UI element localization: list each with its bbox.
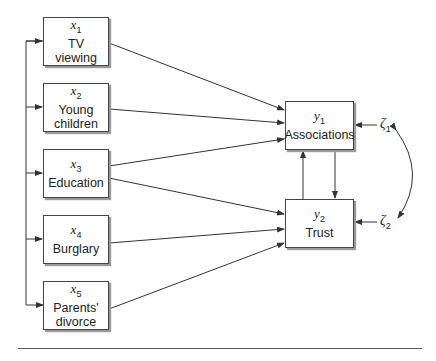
disturbance-zeta2: ζ2 <box>380 213 391 231</box>
box-label: viewing <box>55 51 97 65</box>
box-label: Associations <box>284 128 354 142</box>
box-label: Parents' <box>53 301 98 315</box>
box-label: Education <box>48 176 104 190</box>
variable-symbol: x1 <box>71 18 82 37</box>
box-label: TV <box>68 37 84 51</box>
disturbance-correlation-arc <box>396 130 413 218</box>
variable-symbol: x5 <box>71 282 82 301</box>
box-label: children <box>54 117 98 131</box>
bottom-rule-divider <box>18 348 422 349</box>
box-label: Young <box>59 103 94 117</box>
box-x4-burglary: x4 Burglary <box>43 215 109 264</box>
variable-symbol: x2 <box>71 84 82 103</box>
box-label: divorce <box>56 315 96 329</box>
disturbance-zeta1: ζ1 <box>380 116 391 134</box>
variable-symbol: x3 <box>71 157 82 176</box>
box-label: Burglary <box>53 242 100 256</box>
box-y2-trust: y2 Trust <box>285 199 354 248</box>
box-x5-parents-divorce: x5 Parents' divorce <box>43 281 109 330</box>
variable-symbol: x4 <box>71 223 82 242</box>
box-x1-tv-viewing: x1 TV viewing <box>43 17 109 66</box>
box-label: Trust <box>305 226 333 240</box>
box-x3-education: x3 Education <box>43 149 109 198</box>
variable-symbol: y1 <box>314 109 325 128</box>
variable-symbol: y2 <box>314 207 325 226</box>
box-x2-young-children: x2 Young children <box>43 83 109 132</box>
box-y1-associations: y1 Associations <box>285 101 354 150</box>
